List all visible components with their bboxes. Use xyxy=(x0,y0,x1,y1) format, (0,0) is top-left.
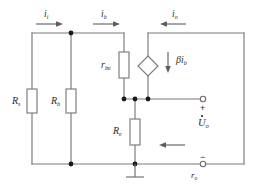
load-subscript-ro: o xyxy=(195,175,198,181)
current-label-ib: ib xyxy=(101,10,107,21)
resistor-label-re: Re xyxy=(113,126,122,137)
resistor-rbe-body xyxy=(119,52,129,78)
current-arrow-group xyxy=(36,24,186,145)
resistor-subscript-rs: s xyxy=(18,100,20,107)
arrowhead-io xyxy=(160,21,167,27)
terminal-plus-label: + xyxy=(200,104,205,113)
node-dot-emitter-right xyxy=(146,97,151,102)
node-dot-emitter-mid xyxy=(133,97,138,102)
arrowhead-beta xyxy=(165,66,171,73)
resistor-label-rbe: rbe xyxy=(101,60,111,71)
arrowhead-ib xyxy=(113,21,120,27)
ground-icon xyxy=(126,164,144,177)
dependent-source-label: βib xyxy=(176,55,187,66)
arrowhead-ro xyxy=(159,142,166,148)
output-voltage-label: Uo xyxy=(198,118,209,129)
resistor-subscript-re: e xyxy=(119,130,122,137)
current-label-io: io xyxy=(172,10,178,21)
arrowhead-ii xyxy=(56,21,63,27)
node-dot-top-rb xyxy=(69,31,74,36)
dependent-source-subscript: b xyxy=(184,59,187,66)
node-dot-bottom-rb xyxy=(69,162,74,167)
terminal-minus-label: − xyxy=(200,153,205,162)
node-dot-emitter-left xyxy=(122,97,127,102)
circuit-schematic-svg xyxy=(0,0,258,194)
current-subscript-io: o xyxy=(175,14,178,20)
circuit-diagram: ii ib io Rs Rb rbe Re βib Uo + − ro xyxy=(0,0,258,194)
output-voltage-symbol: U xyxy=(198,118,206,129)
resistor-label-rb: Rb xyxy=(51,96,60,107)
output-voltage-subscript: o xyxy=(206,122,209,129)
resistor-re-body xyxy=(130,119,140,145)
dependent-source-diamond xyxy=(138,56,158,76)
load-label-ro: ro xyxy=(191,171,197,181)
terminal-negative xyxy=(200,161,205,166)
resistor-label-rs: Rs xyxy=(12,96,21,107)
current-subscript-ib: b xyxy=(104,14,107,20)
terminal-positive xyxy=(200,96,205,101)
resistor-subscript-rbe: be xyxy=(105,64,111,71)
dependent-source-symbol: βi xyxy=(176,54,184,65)
resistor-rs-body xyxy=(27,89,37,113)
current-label-ii: ii xyxy=(44,10,48,21)
resistor-rb-body xyxy=(66,89,76,113)
resistor-subscript-rb: b xyxy=(57,100,60,107)
current-subscript-ii: i xyxy=(47,14,49,20)
